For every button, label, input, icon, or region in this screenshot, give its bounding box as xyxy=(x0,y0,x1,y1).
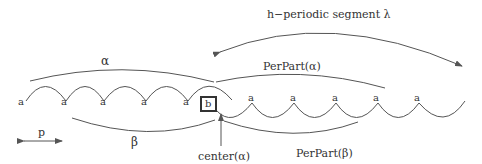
lower-scallop-5 xyxy=(378,103,419,118)
lower-scallop-6 xyxy=(419,101,465,117)
periodic-segment-diagram: h−periodic segment λ α PerPart(α) a a a … xyxy=(0,0,482,164)
lower-a-4: a xyxy=(373,93,379,103)
b-label: b xyxy=(205,99,211,109)
beta-arc xyxy=(72,118,215,132)
lower-a-1: a xyxy=(248,93,254,103)
lower-a-3: a xyxy=(332,93,338,103)
upper-bump-3 xyxy=(104,87,146,102)
alpha-arc xyxy=(30,70,214,82)
upper-bump-1 xyxy=(26,87,66,102)
upper-a-2: a xyxy=(61,97,67,107)
upper-a-1: a xyxy=(18,97,24,107)
lower-a-2: a xyxy=(290,93,296,103)
p-label: p xyxy=(38,127,45,138)
upper-a-4: a xyxy=(141,97,147,107)
alpha-label: α xyxy=(101,55,109,67)
lower-scallop-4 xyxy=(336,103,378,118)
diagram-strokes xyxy=(0,0,482,164)
upper-a-5: a xyxy=(183,97,189,107)
perpart-alpha-arc xyxy=(216,74,385,88)
upper-bump-2 xyxy=(66,87,104,102)
lower-a-5: a xyxy=(414,93,420,103)
perpart-alpha-label: PerPart(α) xyxy=(263,61,321,72)
h-periodic-segment-label: h−periodic segment λ xyxy=(267,9,391,20)
center-alpha-label: center(α) xyxy=(198,151,250,162)
upper-a-3: a xyxy=(100,97,106,107)
h-periodic-arrow xyxy=(220,33,462,66)
lower-scallop-2 xyxy=(252,103,294,118)
perpart-beta-arc xyxy=(224,121,358,133)
lower-scallop-3 xyxy=(294,103,336,118)
beta-label: β xyxy=(131,136,138,148)
upper-bump-4 xyxy=(146,87,188,102)
perpart-beta-label: PerPart(β) xyxy=(296,148,353,159)
